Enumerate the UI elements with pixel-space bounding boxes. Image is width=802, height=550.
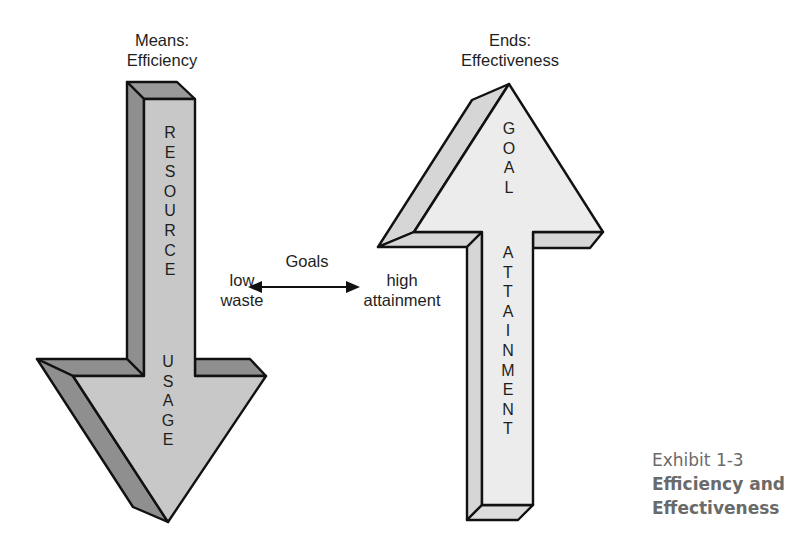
letter: T <box>503 263 513 283</box>
letter: N <box>502 400 514 420</box>
exhibit-title-line2: Effectiveness <box>652 496 785 520</box>
goal-vertical-text: G O A L <box>495 119 523 197</box>
waste-text: waste <box>212 290 272 310</box>
means-label: Means: <box>100 30 224 50</box>
low-waste-label: low waste <box>212 270 272 310</box>
ends-label: Ends: <box>440 30 580 50</box>
resource-vertical-text: R E S O U R C E <box>156 123 184 280</box>
exhibit-number: Exhibit 1-3 <box>652 448 785 472</box>
means-efficiency-label: Means: Efficiency <box>100 30 224 70</box>
letter: C <box>164 241 176 261</box>
effectiveness-label: Effectiveness <box>440 50 580 70</box>
efficiency-label: Efficiency <box>100 50 224 70</box>
attainment-text: attainment <box>348 290 456 310</box>
letter: U <box>164 201 176 221</box>
letter: A <box>163 391 174 411</box>
letter: R <box>164 123 176 143</box>
letter: S <box>165 162 176 182</box>
letter: M <box>501 361 514 381</box>
letter: I <box>506 321 510 341</box>
letter: E <box>503 380 514 400</box>
high-text: high <box>348 270 456 290</box>
exhibit-title-line1: Efficiency and <box>652 472 785 496</box>
high-attainment-label: high attainment <box>348 270 456 310</box>
letter: L <box>505 178 514 198</box>
letter: E <box>163 430 174 450</box>
letter: E <box>165 260 176 280</box>
letter: T <box>503 282 513 302</box>
letter: G <box>503 119 515 139</box>
letter: E <box>165 143 176 163</box>
ends-effectiveness-label: Ends: Effectiveness <box>440 30 580 70</box>
letter: S <box>163 372 174 392</box>
attainment-vertical-text: A T T A I N M E N T <box>494 243 522 439</box>
letter: O <box>164 182 176 202</box>
letter: N <box>502 341 514 361</box>
letter: U <box>162 352 174 372</box>
letter: R <box>164 221 176 241</box>
letter: T <box>503 419 513 439</box>
letter: O <box>503 139 515 159</box>
letter: A <box>504 158 515 178</box>
letter: A <box>503 243 514 263</box>
letter: A <box>503 302 514 322</box>
goals-label: Goals <box>282 251 332 271</box>
usage-vertical-text: U S A G E <box>154 352 182 450</box>
low-text: low <box>212 270 272 290</box>
exhibit-caption: Exhibit 1-3 Efficiency and Effectiveness <box>652 448 785 520</box>
letter: G <box>162 411 174 431</box>
